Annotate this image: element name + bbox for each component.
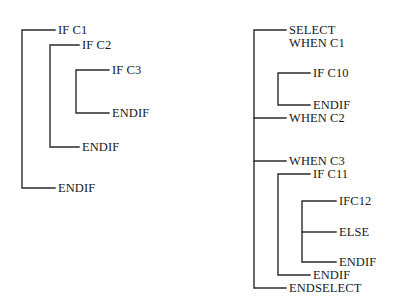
label-if-c3: IF C3 — [112, 64, 141, 77]
bracket-select — [254, 30, 286, 288]
label-endif-c2: ENDIF — [82, 141, 119, 154]
label-endif-c3: ENDIF — [112, 107, 149, 120]
label-endif-c1: ENDIF — [58, 182, 95, 195]
left-structure-brackets — [22, 30, 109, 188]
label-when-c1: WHEN C1 — [289, 37, 345, 50]
label-if-c2: IF C2 — [82, 39, 111, 52]
label-when-c2: WHEN C2 — [289, 112, 345, 125]
bracket-if-c11 — [278, 174, 310, 275]
label-if-c1: IF C1 — [58, 24, 87, 37]
label-else: ELSE — [339, 226, 369, 239]
label-endselect: ENDSELECT — [289, 282, 361, 295]
diagram-canvas: IF C1 IF C2 IF C3 ENDIF ENDIF ENDIF SELE… — [0, 0, 397, 306]
bracket-if-c3 — [76, 70, 109, 113]
label-if-c11: IF C11 — [313, 168, 348, 181]
bracket-if-c10 — [278, 73, 310, 105]
label-ifc12: IFC12 — [339, 195, 371, 208]
label-if-c10: IF C10 — [313, 67, 349, 80]
bracket-if-c2 — [50, 45, 79, 147]
